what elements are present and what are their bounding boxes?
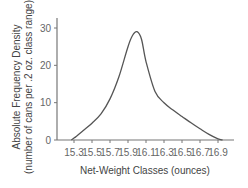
x-tick-label: 16.7 (190, 147, 210, 158)
y-ticks: 0102030 (40, 23, 57, 146)
y-axis-title: Absolute Frequency Density (number of ca… (11, 0, 34, 174)
x-tick-label: 16.5 (172, 147, 192, 158)
x-tick-label: 16.3 (154, 147, 174, 158)
y-tick-label: 30 (40, 23, 52, 34)
y-tick-label: 20 (40, 60, 52, 71)
x-axis-title: Net-Weight Classes (ounces) (80, 165, 210, 176)
x-tick-label: 16.1 (136, 147, 156, 158)
frequency-density-chart: Absolute Frequency Density (number of ca… (0, 0, 248, 188)
y-axis-title-line2: (number of cans per .2 oz. class range) (23, 0, 34, 174)
x-tick-label: 16.9 (208, 147, 228, 158)
y-tick-label: 10 (40, 97, 52, 108)
y-axis-title-line1: Absolute Frequency Density (11, 24, 22, 149)
y-tick-label: 0 (45, 135, 51, 146)
x-tick-label: 15.7 (100, 147, 120, 158)
frequency-curve (71, 32, 222, 140)
x-tick-label: 15.3 (64, 147, 84, 158)
x-tick-label: 15.5 (82, 147, 102, 158)
x-ticks: 15.315.515.715.916.116.316.516.716.9 (64, 140, 228, 158)
x-tick-label: 15.9 (118, 147, 138, 158)
